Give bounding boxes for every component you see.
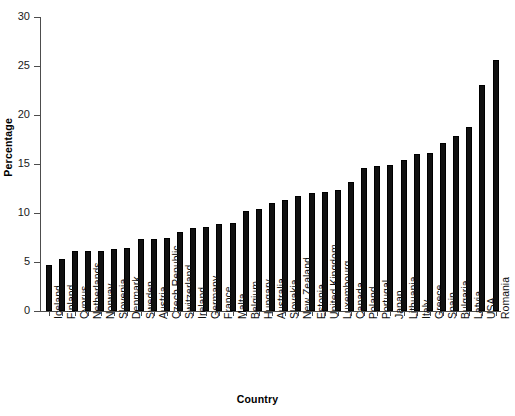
x-category-label: United Kingdom [329, 244, 340, 319]
bar [427, 153, 433, 311]
x-category-label: Latvia [473, 291, 484, 319]
x-category-label: Belgium [250, 281, 261, 319]
x-category-label: USA [486, 297, 497, 319]
x-category-label: New Zealand [302, 257, 313, 319]
y-tick-label-30: 30 [4, 11, 30, 22]
x-category-label: Denmark [131, 276, 142, 319]
y-axis-title: Percentage [2, 118, 14, 177]
x-axis-title: Country [0, 393, 515, 405]
y-tick-15 [34, 164, 40, 165]
x-category-label: Canada [355, 282, 366, 319]
x-category-label: Lithuania [408, 276, 419, 319]
y-axis-line [40, 17, 41, 312]
x-category-label: Slovakia [289, 279, 300, 319]
y-tick-label-10: 10 [4, 207, 30, 218]
bar [46, 265, 52, 311]
bar [479, 85, 485, 311]
x-category-label: Hungary [263, 279, 274, 319]
x-category-label: Slovenia [118, 279, 129, 319]
y-tick-label-0: 0 [4, 305, 30, 316]
x-category-label: Romania [500, 277, 511, 319]
x-category-label: Luxembourg [342, 261, 353, 319]
x-category-label: Cyprus [79, 286, 90, 319]
bar [401, 160, 407, 311]
x-category-label: Czech Republic [171, 245, 182, 319]
x-category-label: Portugal [381, 280, 392, 319]
x-category-label: Netherlands [92, 262, 103, 319]
y-tick-20 [34, 115, 40, 116]
x-category-label: Spain [447, 292, 458, 319]
x-category-label: Finland [66, 285, 77, 319]
bar-chart: 051015202530 IcelandFinlandCyprusNetherl… [0, 0, 515, 416]
y-tick-5 [34, 262, 40, 263]
x-tick [49, 311, 50, 316]
y-tick-25 [34, 66, 40, 67]
x-category-label: Iceland [53, 285, 64, 319]
x-category-label: Ireland [197, 287, 208, 319]
x-category-label: Sweden [145, 281, 156, 319]
x-category-label: Switzerland [184, 265, 195, 319]
y-tick-label-5: 5 [4, 256, 30, 267]
y-tick-30 [34, 17, 40, 18]
x-category-label: Australia [276, 278, 287, 319]
x-category-label: Bulgaria [460, 280, 471, 319]
x-category-label: Germany [210, 276, 221, 319]
x-category-label: Greece [434, 285, 445, 319]
x-category-label: Japan [394, 290, 405, 319]
x-category-label: Italy [421, 300, 432, 319]
bar [493, 60, 499, 311]
x-category-label: Poland [368, 286, 379, 319]
y-tick-10 [34, 213, 40, 214]
x-category-label: Norway [105, 283, 116, 319]
y-tick-label-25: 25 [4, 60, 30, 71]
x-category-label: France [223, 286, 234, 319]
x-category-label: Malta [237, 293, 248, 319]
x-category-label: Estonia [316, 284, 327, 319]
x-category-label: Austria [158, 286, 169, 319]
y-tick-0 [34, 311, 40, 312]
